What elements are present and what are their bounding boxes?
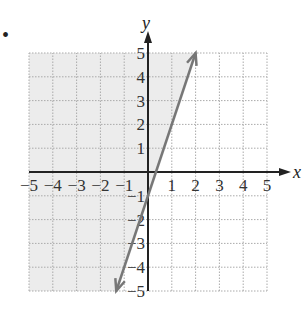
y-tick-label: 5 — [137, 44, 146, 63]
y-tick-label: 3 — [137, 92, 146, 111]
inequality-graph: xy−5−4−3−2−11234554321−1−2−3−4−5 — [0, 0, 305, 326]
x-tick-label: 2 — [191, 176, 200, 195]
x-axis-label: x — [292, 162, 301, 182]
y-tick-label: −5 — [127, 282, 145, 301]
y-tick-label: −4 — [127, 258, 146, 277]
x-tick-label: −2 — [91, 176, 109, 195]
y-axis-label: y — [140, 13, 150, 33]
x-tick-label: 3 — [215, 176, 224, 195]
x-tick-label: −3 — [68, 176, 86, 195]
x-axis-arrow-icon — [279, 168, 291, 176]
x-tick-label: −5 — [20, 176, 38, 195]
y-tick-label: −1 — [127, 187, 145, 206]
y-tick-label: 2 — [137, 115, 146, 134]
x-tick-label: 1 — [168, 176, 177, 195]
y-tick-label: 4 — [137, 68, 146, 87]
x-tick-label: 5 — [263, 176, 272, 195]
x-tick-label: 4 — [239, 176, 248, 195]
y-tick-label: 1 — [137, 139, 146, 158]
x-tick-label: −4 — [44, 176, 63, 195]
